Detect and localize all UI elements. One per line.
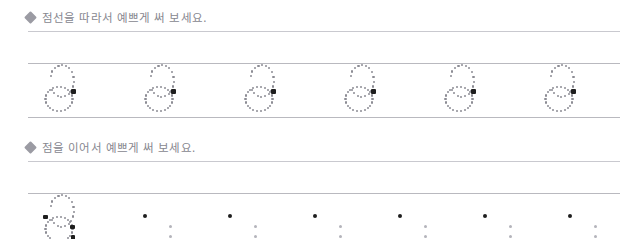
practice-row-connect[interactable] — [28, 193, 620, 239]
trace-dot — [51, 200, 53, 202]
trace-dot — [47, 235, 49, 237]
trace-dot — [568, 67, 570, 69]
trace-dot — [350, 75, 352, 77]
trace-dot — [152, 109, 154, 111]
dotted-glyph-6[interactable] — [142, 64, 182, 117]
diamond-bullet-icon — [24, 11, 37, 24]
stroke-anchor-dot — [398, 214, 402, 218]
dot-guide-group[interactable] — [567, 194, 607, 239]
trace-dot — [561, 64, 563, 66]
trace-dot — [51, 219, 53, 221]
trace-dot — [468, 67, 470, 69]
trace-dot — [264, 87, 266, 89]
trace-dot — [54, 67, 56, 69]
trace-dot — [57, 195, 59, 197]
trace-dot — [147, 105, 149, 107]
trace-dot — [165, 65, 167, 67]
trace-dot — [571, 98, 573, 100]
dot-guide-group[interactable] — [227, 194, 267, 239]
trace-dot — [47, 91, 49, 93]
trace-dot — [465, 65, 467, 67]
trace-dot — [65, 65, 67, 67]
trace-dot — [151, 89, 153, 91]
trace-dot — [161, 64, 163, 66]
trace-dot — [344, 98, 346, 100]
trace-dot — [567, 107, 569, 109]
trace-dot — [565, 65, 567, 67]
trace-dot — [245, 94, 247, 96]
stroke-anchor-dot — [568, 214, 572, 218]
trace-dot — [357, 65, 359, 67]
trace-dot — [44, 228, 46, 230]
trace-dot — [249, 107, 251, 109]
trace-dot — [553, 92, 555, 94]
dot-guide-group[interactable] — [397, 194, 437, 239]
trace-dot — [64, 217, 66, 219]
trace-dot — [50, 205, 52, 207]
trace-dot — [360, 96, 362, 98]
dotted-glyph-6[interactable] — [242, 64, 282, 117]
stroke-anchor-dot — [483, 214, 487, 218]
trace-dot — [171, 98, 173, 100]
trace-dot — [60, 86, 62, 88]
trace-dot — [68, 197, 70, 199]
guide-dot — [254, 235, 257, 238]
trace-dot — [457, 65, 459, 67]
trace-dot — [345, 101, 347, 103]
dot-guide-group[interactable] — [482, 194, 522, 239]
trace-dot — [571, 101, 573, 103]
trace-dot — [364, 109, 366, 111]
trace-dot — [45, 224, 47, 226]
stroke-anchor-dot — [71, 235, 76, 239]
trace-dot — [549, 107, 551, 109]
trace-dot — [273, 81, 275, 83]
trace-dot — [154, 67, 156, 69]
dotted-glyph-6[interactable] — [42, 64, 82, 117]
trace-dot — [464, 87, 466, 89]
trace-dot — [564, 95, 566, 97]
trace-dot — [564, 87, 566, 89]
trace-dot — [160, 96, 162, 98]
guide-dot — [509, 235, 512, 238]
trace-dot — [47, 221, 49, 223]
trace-dot — [261, 64, 263, 66]
trace-dot — [56, 216, 58, 218]
trace-dot — [268, 67, 270, 69]
trace-dot — [356, 86, 358, 88]
dotted-glyph-6[interactable] — [342, 64, 382, 117]
stroke-anchor-dot — [571, 89, 575, 93]
trace-dot — [354, 67, 356, 69]
trace-dot — [265, 65, 267, 67]
dot-guide-group[interactable] — [142, 194, 182, 239]
trace-dot — [451, 70, 453, 72]
trace-dot — [447, 91, 449, 93]
trace-dot — [360, 110, 362, 112]
trace-dot — [60, 216, 62, 218]
dotted-glyph-6[interactable] — [42, 194, 82, 239]
heading-divider-2 — [28, 161, 620, 162]
trace-dot — [560, 86, 562, 88]
dot-guide-group[interactable] — [312, 194, 352, 239]
trace-dot — [573, 81, 575, 83]
trace-dot — [160, 86, 162, 88]
stroke-anchor-dot — [228, 214, 232, 218]
trace-dot — [49, 107, 51, 109]
trace-dot — [547, 91, 549, 93]
trace-dot — [454, 67, 456, 69]
trace-dot — [44, 98, 46, 100]
trace-dot — [57, 95, 59, 97]
trace-dot — [64, 87, 66, 89]
trace-dot — [168, 67, 170, 69]
instruction-text: 점선을 따라서 예쁘게 써 보세요. — [42, 9, 207, 25]
dotted-glyph-6[interactable] — [442, 64, 482, 117]
trace-dot — [560, 110, 562, 112]
trace-dot — [268, 93, 270, 95]
practice-row-trace[interactable] — [28, 63, 620, 118]
trace-dot — [272, 76, 274, 78]
trace-dot — [260, 110, 262, 112]
trace-dot — [156, 110, 158, 112]
trace-dot — [551, 70, 553, 72]
trace-dot — [45, 94, 47, 96]
dotted-glyph-6[interactable] — [542, 64, 582, 117]
trace-dot — [444, 98, 446, 100]
